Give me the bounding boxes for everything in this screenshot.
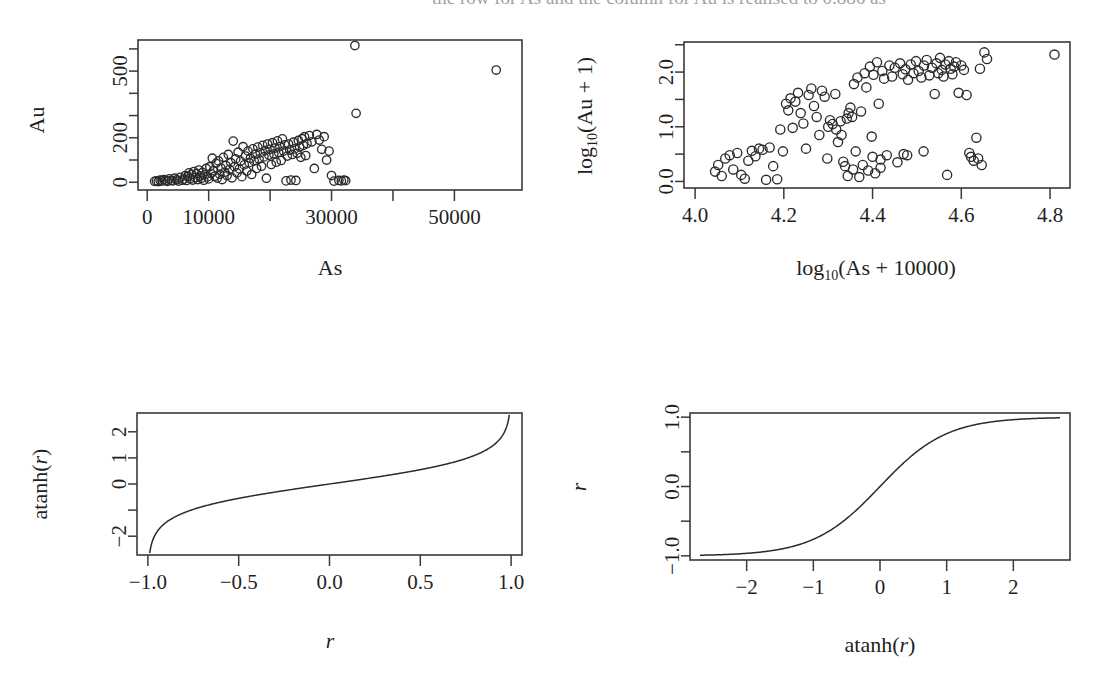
tick-label: 0	[142, 205, 153, 229]
tick-label: −2	[735, 575, 757, 599]
data-point	[769, 162, 778, 171]
data-point	[302, 151, 310, 159]
tick-label: 1.0	[660, 404, 684, 430]
panel-2-data-points	[710, 48, 1059, 185]
data-point	[252, 164, 260, 172]
tick-label: 2	[107, 427, 131, 438]
tick-label: 0	[107, 479, 131, 490]
data-point	[796, 108, 805, 117]
data-point	[272, 158, 280, 166]
tick-label: 2	[1008, 575, 1019, 599]
tick-label: 1.0	[498, 570, 524, 594]
panel-1-data-points	[150, 41, 500, 185]
data-point	[492, 66, 500, 74]
tick-label: 2.0	[654, 59, 678, 85]
tick-label: 4.4	[859, 203, 886, 227]
panel-2-x-ticklabels: 4.04.24.44.64.8	[682, 203, 1063, 227]
tick-label: 1.0	[654, 114, 678, 140]
panel-2-x-axis-label: log10(As + 10000)	[796, 255, 956, 283]
tick-label: 4.6	[948, 203, 974, 227]
data-point	[801, 144, 810, 153]
tick-label: 1	[941, 575, 952, 599]
data-point	[823, 154, 832, 163]
data-point	[1050, 50, 1059, 59]
tick-label: 30000	[305, 205, 358, 229]
panel-1-x-ticks	[147, 190, 454, 201]
tick-label: 0.5	[407, 570, 433, 594]
data-point	[885, 61, 894, 70]
panel-4-curve	[700, 418, 1060, 555]
tick-label: 0	[875, 575, 886, 599]
data-point	[874, 99, 883, 108]
data-point	[868, 152, 877, 161]
panel-2-frame	[684, 42, 1070, 188]
data-point	[776, 125, 785, 134]
panel-tanh-of-atanh: −1.00.01.0 −2−1012 r atanh(r)	[560, 390, 1106, 690]
panel-1-y-axis-label: Au	[24, 107, 49, 134]
data-point	[292, 176, 300, 184]
data-point	[310, 164, 318, 172]
data-point	[778, 147, 787, 156]
tick-label: 50000	[428, 205, 481, 229]
panel-1-x-ticklabels: 0100003000050000	[142, 205, 481, 229]
data-point	[855, 172, 864, 181]
data-point	[939, 72, 948, 81]
panel-1-svg: 0200500 0100003000050000 Au As	[0, 20, 560, 310]
data-point	[856, 107, 865, 116]
data-point	[869, 70, 878, 79]
panel-3-x-axis-label: r	[326, 628, 335, 653]
tick-label: 0.0	[654, 168, 678, 194]
panel-3-x-ticklabels: −1.0−0.50.00.51.0	[129, 570, 524, 594]
panel-3-x-ticks	[148, 555, 511, 566]
panel-1-y-ticklabels: 0200500	[108, 55, 132, 187]
panel-logau-vs-logas: 0.01.02.0 4.04.24.44.64.8 log10(Au + 1) …	[560, 20, 1106, 310]
tick-label: 4.2	[771, 203, 797, 227]
tick-label: 0	[108, 177, 132, 188]
panel-au-vs-as: 0200500 0100003000050000 Au As	[0, 20, 560, 310]
data-point	[761, 175, 770, 184]
panel-2-y-ticklabels: 0.01.02.0	[654, 59, 678, 195]
panel-3-y-ticklabels: −2012	[107, 427, 131, 548]
panel-3-svg: −2012 −1.0−0.50.00.51.0 atanh(r) r	[0, 390, 560, 690]
panel-atanh-of-r: −2012 −1.0−0.50.00.51.0 atanh(r) r	[0, 390, 560, 690]
tick-label: 500	[108, 55, 132, 87]
data-point	[858, 160, 867, 169]
panel-2-y-axis-label: log10(Au + 1)	[572, 57, 600, 175]
panel-1-x-axis-label: As	[318, 255, 342, 280]
data-point	[893, 158, 902, 167]
data-point	[793, 88, 802, 97]
data-point	[851, 147, 860, 156]
panel-2-x-ticks	[695, 188, 1050, 199]
data-point	[351, 41, 359, 49]
data-point	[831, 89, 840, 98]
data-point	[717, 171, 726, 180]
tick-label: 10000	[182, 205, 235, 229]
tick-label: −1	[802, 575, 824, 599]
data-point	[262, 174, 270, 182]
tick-label: 0.0	[660, 473, 684, 499]
panel-3-y-axis-label: atanh(r)	[27, 449, 52, 520]
tick-label: 200	[108, 122, 132, 153]
data-point	[788, 123, 797, 132]
panel-4-svg: −1.00.01.0 −2−1012 r atanh(r)	[560, 390, 1106, 690]
data-point	[799, 119, 808, 128]
panel-3-curve	[150, 415, 510, 553]
clipped-caption-text: the row for As and the column for Au is …	[432, 0, 886, 9]
tick-label: 1	[107, 453, 131, 464]
figure-page: the row for As and the column for Au is …	[0, 0, 1106, 696]
tick-label: −1.0	[660, 537, 684, 575]
data-point	[972, 133, 981, 142]
panel-4-y-ticklabels: −1.00.01.0	[660, 404, 684, 575]
data-point	[773, 175, 782, 184]
tick-label: −2	[107, 525, 131, 547]
data-point	[809, 101, 818, 110]
tick-label: −1.0	[129, 570, 167, 594]
data-point	[848, 165, 857, 174]
data-point	[352, 109, 360, 117]
data-point	[820, 92, 829, 101]
data-point	[815, 130, 824, 139]
data-point	[817, 86, 826, 95]
data-point	[846, 103, 855, 112]
data-point	[229, 137, 237, 145]
data-point	[322, 156, 330, 164]
